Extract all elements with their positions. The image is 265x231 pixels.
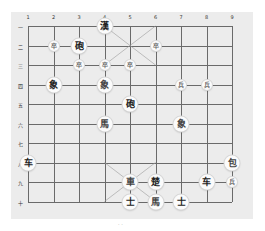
- game-piece[interactable]: 砲: [72, 38, 87, 53]
- game-piece[interactable]: 馬: [97, 116, 112, 131]
- game-piece[interactable]: 卒: [151, 41, 161, 51]
- column-label: 3: [77, 14, 80, 20]
- row-label: 七: [18, 140, 23, 147]
- game-piece[interactable]: 兵: [176, 80, 186, 90]
- game-piece[interactable]: 卒: [74, 60, 84, 70]
- game-piece[interactable]: 车: [199, 175, 214, 190]
- game-piece[interactable]: 车: [21, 155, 36, 170]
- game-piece[interactable]: 兵: [227, 177, 237, 187]
- row-label: 五: [18, 101, 23, 108]
- game-piece[interactable]: 卒: [125, 60, 135, 70]
- game-piece[interactable]: 楚: [148, 175, 163, 190]
- column-label: 5: [128, 14, 131, 20]
- row-label: 九: [18, 179, 23, 186]
- game-piece[interactable]: 卒: [49, 41, 59, 51]
- row-label: 二: [18, 42, 23, 49]
- row-label: 三: [18, 62, 23, 69]
- row-label: 十: [18, 198, 23, 205]
- column-label: 2: [52, 14, 55, 20]
- row-label: 一: [18, 23, 23, 30]
- game-piece[interactable]: 象: [174, 116, 189, 131]
- game-piece[interactable]: 士: [174, 194, 189, 209]
- column-label: 9: [230, 14, 233, 20]
- column-label: 1: [26, 14, 29, 20]
- column-label: 8: [205, 14, 208, 20]
- game-piece[interactable]: 卒: [100, 60, 110, 70]
- column-label: 6: [154, 14, 157, 20]
- game-piece[interactable]: 包: [225, 155, 240, 170]
- game-piece[interactable]: 車: [123, 175, 138, 190]
- column-label: 7: [179, 14, 182, 20]
- game-piece[interactable]: 象: [46, 77, 61, 92]
- game-piece[interactable]: 漢: [97, 19, 112, 34]
- game-piece[interactable]: 象: [97, 77, 112, 92]
- row-label: 六: [18, 120, 23, 127]
- row-label: 四: [18, 81, 23, 88]
- game-piece[interactable]: 兵: [202, 80, 212, 90]
- game-piece[interactable]: 砲: [123, 97, 138, 112]
- game-piece[interactable]: 馬: [148, 194, 163, 209]
- xiangqi-board[interactable]: 123456789一二三四五六七八九十漢卒砲卒卒卒卒象象兵兵砲馬象车包車楚车兵士…: [0, 0, 265, 231]
- footer-mark: · ·: [118, 221, 123, 227]
- game-piece[interactable]: 士: [123, 194, 138, 209]
